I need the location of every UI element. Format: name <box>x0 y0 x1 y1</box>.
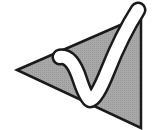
check-triangle-graphic <box>0 0 157 130</box>
checkmark-triangle-icon <box>0 0 157 130</box>
